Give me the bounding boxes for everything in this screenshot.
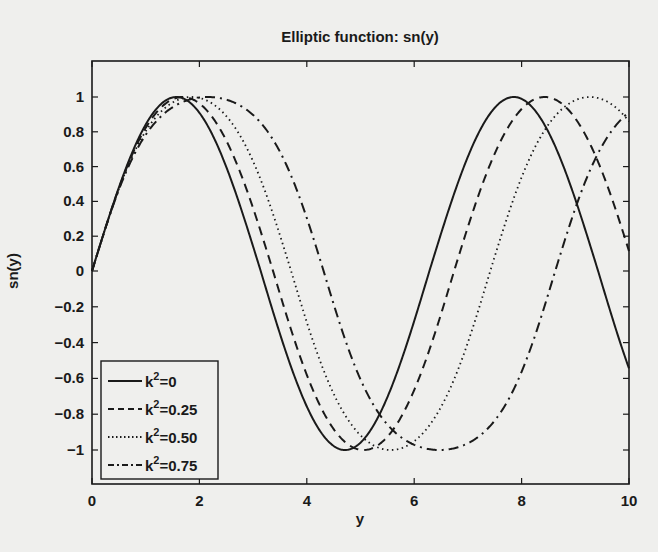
x-tick-label: 4 xyxy=(303,492,312,509)
x-tick-label: 6 xyxy=(410,492,418,509)
y-tick-label: −0.6 xyxy=(54,369,84,386)
chart-title: Elliptic function: sn(y) xyxy=(281,28,439,45)
y-tick-label: 0.2 xyxy=(63,227,84,244)
y-tick-label: −1 xyxy=(67,441,84,458)
y-tick-label: 0.6 xyxy=(63,158,84,175)
y-axis-label: sn(y) xyxy=(4,253,21,289)
x-tick-label: 0 xyxy=(88,492,96,509)
x-tick-label: 2 xyxy=(195,492,203,509)
y-tick-label: −0.4 xyxy=(54,334,84,351)
x-tick-label: 8 xyxy=(517,492,525,509)
legend: k2=0k2=0.25k2=0.50k2=0.75 xyxy=(101,361,218,479)
legend-label: k2=0 xyxy=(145,370,177,390)
y-tick-label: −0.2 xyxy=(54,298,84,315)
y-tick-label: −0.8 xyxy=(54,405,84,422)
y-tick-label: 0 xyxy=(76,262,84,279)
x-axis-label: y xyxy=(356,510,365,527)
legend-label: k2=0.75 xyxy=(145,454,197,474)
y-tick-label: 1 xyxy=(76,88,84,105)
y-tick-label: 0.4 xyxy=(63,192,85,209)
chart: Elliptic function: sn(y) 0246810 10.80.6… xyxy=(0,0,658,552)
y-tick-label: 0.8 xyxy=(63,123,84,140)
legend-label: k2=0.25 xyxy=(145,398,197,418)
x-tick-label: 10 xyxy=(621,492,638,509)
legend-label: k2=0.50 xyxy=(145,426,197,446)
